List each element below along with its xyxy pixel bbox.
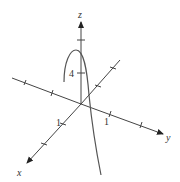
3d-axes-diagram: z 4 1 1 x y (0, 0, 180, 182)
neg-y-axis (12, 78, 81, 104)
z-axis-label: z (77, 9, 82, 20)
y-tick-label: 1 (104, 116, 109, 127)
y-axis-label: y (165, 132, 171, 143)
tick-mark (140, 122, 142, 128)
x-axis (27, 104, 81, 163)
x-axis-label: x (16, 167, 22, 178)
z-tick-label: 4 (69, 68, 74, 79)
neg-x-axis (81, 60, 120, 104)
diagram-canvas: z 4 1 1 x y (0, 0, 180, 182)
x-tick-label: 1 (56, 117, 61, 128)
